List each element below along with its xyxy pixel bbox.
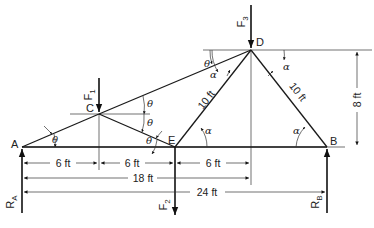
member-AC (22, 114, 99, 147)
reaction-RA: RA (4, 149, 22, 213)
reference-lines (22, 50, 372, 185)
dim-8ft: 8 ft (351, 93, 363, 108)
node-label-C: C (86, 102, 94, 114)
node-label-B: B (330, 135, 337, 147)
force-F3: F3 (235, 5, 251, 48)
angle-alpha-B: α (293, 125, 300, 136)
angle-alpha-D-left: α (210, 69, 217, 80)
angle-theta-E: θ (146, 135, 152, 146)
svg-text:RA: RA (4, 195, 19, 209)
node-label-D: D (256, 36, 264, 48)
force-F2: F2 (157, 147, 175, 215)
angle-theta-C-lower: θ (147, 117, 153, 128)
svg-text:RB: RB (309, 195, 324, 208)
angle-theta-A: θ (52, 134, 58, 145)
dim-6ft-ac: 6 ft (56, 157, 71, 169)
angle-theta-C-upper: θ (147, 98, 153, 109)
reaction-RB: RB (309, 149, 327, 213)
dim-10ft-ed: 10 ft (195, 88, 217, 112)
truss-members (22, 50, 327, 147)
member-CE (99, 114, 175, 147)
angle-alpha-D-right: α (283, 61, 290, 72)
dim-6ft-ce: 6 ft (125, 157, 140, 169)
dim-18ft: 18 ft (133, 172, 154, 184)
svg-text:F1: F1 (82, 89, 97, 101)
node-label-A: A (11, 138, 19, 150)
dim-6ft-ed: 6 ft (206, 157, 221, 169)
svg-text:F2: F2 (157, 199, 172, 211)
truss-diagram: A C E D B F1 F3 F2 RA RB (0, 0, 374, 228)
member-CD (99, 50, 251, 114)
angle-theta-D: θ (204, 58, 210, 69)
angle-alpha-E: α (205, 125, 212, 136)
node-label-E: E (168, 134, 175, 146)
dim-24ft: 24 ft (197, 186, 218, 198)
svg-text:F3: F3 (235, 16, 250, 28)
